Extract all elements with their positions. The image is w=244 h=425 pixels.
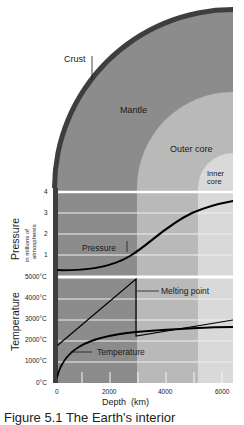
crust-label: Crust — [64, 54, 86, 64]
temp-tick-1000: 1000°C — [25, 357, 47, 364]
outer-core-label: Outer core — [170, 144, 213, 154]
pressure-tick-4: 4 — [44, 188, 48, 195]
pressure-axis-title: Pressure — [9, 218, 21, 260]
pressure-axis-subtitle-1: in millions of — [24, 229, 30, 262]
pressure-axis-subtitle-2: atmospheres — [31, 224, 37, 259]
mantle-label: Mantle — [120, 105, 147, 115]
temperature-axis-title: Temperature — [9, 292, 21, 351]
depth-tick-6000: 6000 — [215, 388, 230, 395]
crust-band — [53, 188, 58, 383]
temp-tick-4000: 4000°C — [25, 294, 47, 301]
depth-tick-2000: 2000 — [102, 388, 117, 395]
temp-tick-5000: 5000°C — [25, 273, 47, 280]
temp-tick-3000: 3000°C — [25, 315, 47, 322]
inner-core-label-line2: core — [207, 177, 222, 186]
pressure-curve-label: Pressure — [82, 243, 116, 253]
pressure-tick-1: 1 — [44, 251, 48, 258]
depth-axis-label: Depth (km) — [102, 397, 149, 407]
temp-tick-2000: 2000°C — [25, 336, 47, 343]
depth-tick-4000: 4000 — [158, 388, 173, 395]
melting-point-label: Melting point — [161, 286, 210, 296]
figure-caption: Figure 5.1 The Earth's interior — [4, 410, 175, 425]
pressure-tick-3: 3 — [44, 209, 48, 216]
depth-tick-0: 0 — [55, 388, 59, 395]
temp-tick-0: 0°C — [36, 379, 47, 386]
temperature-curve-label: Temperature — [97, 347, 145, 357]
pressure-tick-2: 2 — [44, 230, 48, 237]
